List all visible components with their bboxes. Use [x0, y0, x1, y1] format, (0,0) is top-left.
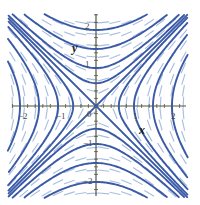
y-tick-label-1: 1	[85, 60, 90, 69]
y-axis-label: y	[72, 42, 77, 54]
x-tick-label-1: 1	[133, 112, 138, 121]
x-tick-label--1: −1	[56, 112, 66, 121]
x-tick-label--2: −2	[18, 112, 28, 121]
y-tick-label-2: 2	[85, 22, 90, 31]
plot-canvas	[0, 0, 200, 205]
origin-label: 0	[87, 110, 92, 119]
x-tick-label-2: 2	[171, 112, 176, 121]
y-tick-label--1: −1	[83, 139, 93, 148]
y-tick-label--2: −2	[83, 177, 93, 186]
direction-field-figure: −2 −1 1 2 2 1 −1 −2 0 x y	[0, 0, 200, 205]
x-axis-label: x	[139, 124, 145, 136]
